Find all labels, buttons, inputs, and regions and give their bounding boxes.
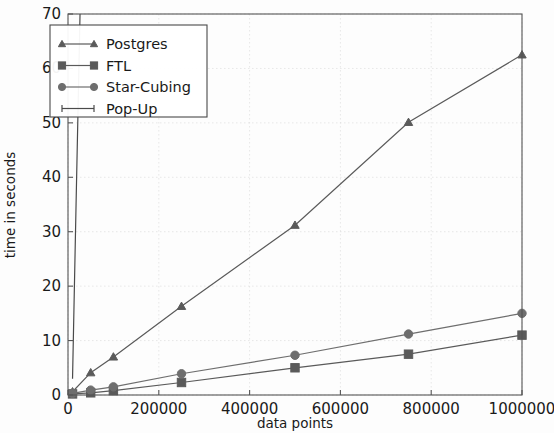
y-tick-label: 40 — [42, 168, 61, 186]
x-tick-label: 0 — [63, 400, 73, 418]
series-ftl — [68, 331, 526, 398]
data-point-marker — [68, 389, 76, 397]
data-point-marker — [109, 383, 117, 391]
y-tick-label: 30 — [42, 223, 61, 241]
chart-legend: PostgresFTLStar-CubingPop-Up — [50, 25, 207, 117]
series-star-cubing — [68, 309, 526, 397]
data-point-marker — [404, 330, 412, 338]
legend-label: Postgres — [106, 36, 168, 52]
y-tick-label: 0 — [51, 386, 61, 404]
data-point-marker — [404, 350, 412, 358]
legend-label: FTL — [106, 58, 131, 74]
y-axis-title: time in seconds — [2, 152, 18, 259]
legend-marker — [90, 83, 97, 90]
data-point-marker — [291, 364, 299, 372]
y-tick-label: 10 — [42, 332, 61, 350]
legend-label: Pop-Up — [106, 101, 157, 117]
y-tick-label: 70 — [42, 5, 61, 23]
legend-marker — [58, 83, 65, 90]
data-point-marker — [87, 386, 95, 394]
line-chart: 02000004000006000008000001000000 0102030… — [0, 0, 554, 433]
x-tick-label: 1000000 — [489, 400, 554, 418]
data-point-marker — [404, 118, 412, 125]
chart-page: 02000004000006000008000001000000 0102030… — [0, 0, 554, 433]
legend-marker — [90, 62, 97, 69]
y-tick-label: 20 — [42, 277, 61, 295]
legend-marker — [58, 62, 65, 69]
data-point-marker — [177, 302, 185, 309]
data-point-marker — [291, 351, 299, 359]
data-point-marker — [87, 368, 95, 375]
x-axis-title: data points — [257, 415, 333, 431]
data-point-marker — [109, 353, 117, 360]
legend-label: Star-Cubing — [106, 79, 191, 95]
x-tick-label: 200000 — [130, 400, 187, 418]
data-point-marker — [177, 378, 185, 386]
data-point-marker — [177, 370, 185, 378]
x-tick-label: 800000 — [403, 400, 460, 418]
